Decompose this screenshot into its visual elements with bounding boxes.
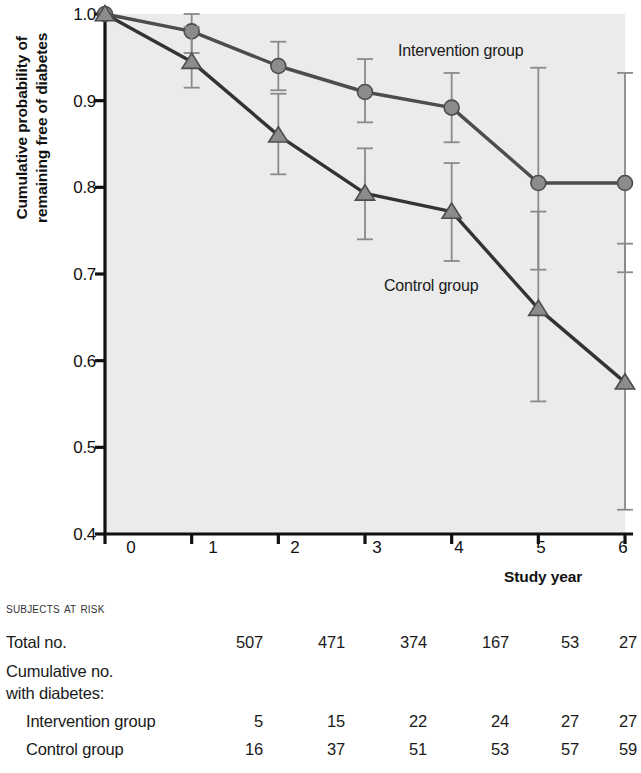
- figure-container: Cumulative probability of remaining free…: [0, 0, 641, 773]
- risk-cell: 167: [453, 633, 509, 652]
- risk-cell: 471: [289, 633, 345, 652]
- series-label-control: Control group: [384, 277, 478, 295]
- y-tick-label-0.8: 0.8: [52, 178, 96, 198]
- marker-circle: [531, 176, 546, 191]
- risk-row-label: Intervention group: [26, 712, 155, 731]
- marker-circle: [444, 100, 459, 115]
- risk-cell: 24: [453, 712, 509, 731]
- y-tick-label-0.4: 0.4: [52, 525, 96, 545]
- risk-cell: 27: [523, 712, 579, 731]
- x-tick-label-4: 4: [447, 538, 471, 558]
- risk-cell: 27: [581, 633, 637, 652]
- risk-cell: 374: [371, 633, 427, 652]
- y-tick-label-0.9: 0.9: [52, 92, 96, 112]
- risk-row-label: with diabetes:: [6, 684, 104, 703]
- risk-row-label: Cumulative no.: [6, 662, 113, 681]
- risk-cell: 16: [207, 740, 263, 759]
- risk-cell: 53: [453, 740, 509, 759]
- risk-cell: 15: [289, 712, 345, 731]
- risk-cell: 37: [289, 740, 345, 759]
- risk-cell: 5: [207, 712, 263, 731]
- risk-cell: 51: [371, 740, 427, 759]
- y-axis-title: Cumulative probability of remaining free…: [12, 3, 52, 253]
- series-label-intervention: Intervention group: [398, 42, 523, 60]
- risk-cell: 59: [581, 740, 637, 759]
- plot-svg: [0, 0, 641, 560]
- y-tick-label-0.7: 0.7: [52, 265, 96, 285]
- chart-area: Cumulative probability of remaining free…: [0, 0, 641, 560]
- x-tick-label-3: 3: [365, 538, 389, 558]
- marker-circle: [358, 85, 373, 100]
- x-tick-label-1: 1: [201, 538, 225, 558]
- x-tick-label-5: 5: [529, 538, 553, 558]
- risk-row-label: Control group: [26, 740, 123, 759]
- marker-circle: [271, 59, 286, 74]
- risk-cell: 53: [523, 633, 579, 652]
- x-tick-label-6: 6: [611, 538, 635, 558]
- risk-cell: 57: [523, 740, 579, 759]
- x-tick-label-0: 0: [119, 538, 143, 558]
- x-axis-title: Study year: [504, 568, 582, 586]
- risk-row-label: Total no.: [6, 633, 67, 652]
- x-tick-label-2: 2: [283, 538, 307, 558]
- risk-table-heading: Subjects at Risk: [6, 600, 105, 616]
- risk-cell: 27: [581, 712, 637, 731]
- risk-cell: 22: [371, 712, 427, 731]
- y-tick-label-0.6: 0.6: [52, 352, 96, 372]
- y-tick-label-0.5: 0.5: [52, 438, 96, 458]
- marker-circle: [618, 176, 633, 191]
- risk-cell: 507: [207, 633, 263, 652]
- y-tick-label-1.0: 1.0: [52, 5, 96, 25]
